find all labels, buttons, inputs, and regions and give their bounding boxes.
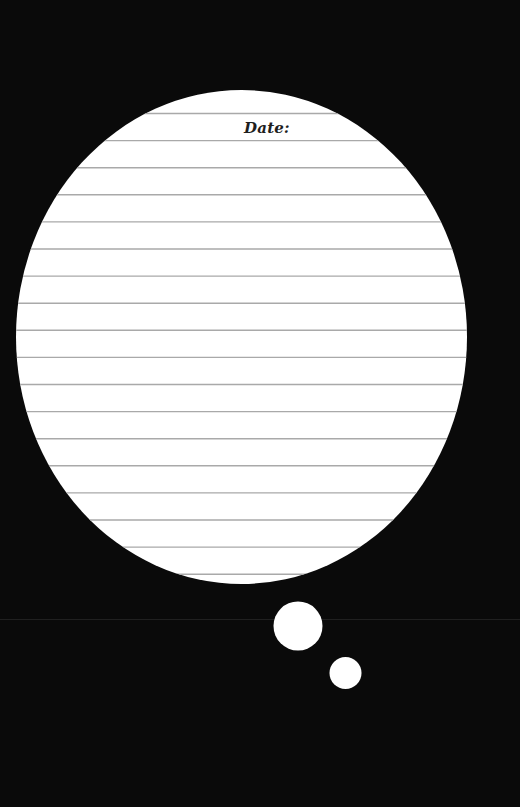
date-label: Date: [244, 117, 294, 139]
journal-page: Date: [0, 0, 520, 807]
thought-bubble-dot-small-icon [330, 657, 362, 689]
thought-bubble-body [16, 90, 467, 584]
thought-bubble-dot-large-icon [274, 602, 323, 651]
